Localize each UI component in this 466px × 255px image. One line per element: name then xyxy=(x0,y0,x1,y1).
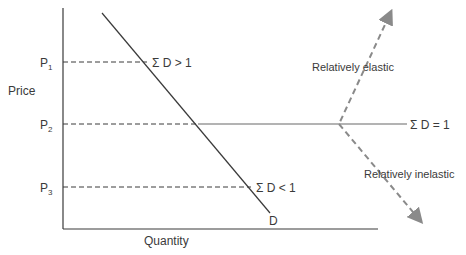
relatively-inelastic-label: Relatively inelastic xyxy=(364,168,455,180)
price-label-p1: P1 xyxy=(40,56,53,72)
x-axis-label: Quantity xyxy=(144,234,189,248)
elasticity-gt1-label: Σ D > 1 xyxy=(152,56,192,70)
price-label-p2: P2 xyxy=(40,118,53,134)
elasticity-diagram: Price Quantity P1 P2 P3 Σ D > 1 Σ D = 1 … xyxy=(0,0,466,255)
price-label-p3: P3 xyxy=(40,181,53,197)
elasticity-lt1-label: Σ D < 1 xyxy=(256,181,296,195)
elasticity-eq1-label: Σ D = 1 xyxy=(410,118,450,132)
demand-curve xyxy=(102,13,270,213)
demand-curve-label: D xyxy=(269,214,278,228)
y-axis-label: Price xyxy=(8,84,36,98)
relatively-elastic-label: Relatively elastic xyxy=(312,61,394,73)
